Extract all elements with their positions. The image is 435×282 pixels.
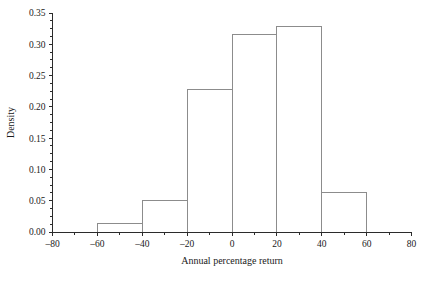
y-tick-label: 0.05 — [29, 196, 46, 206]
x-tick-label: –60 — [89, 239, 105, 249]
y-tick-label: 0.20 — [29, 102, 46, 112]
histogram-figure: –80–60–40–20020406080 0.000.050.100.150.… — [0, 0, 435, 282]
histogram-svg: –80–60–40–20020406080 0.000.050.100.150.… — [0, 0, 435, 282]
x-tick-label: 40 — [317, 239, 327, 249]
y-tick-label: 0.15 — [29, 134, 46, 144]
x-tick-label: 20 — [272, 239, 282, 249]
y-tick-label: 0.00 — [29, 227, 46, 237]
y-tick-label: 0.10 — [29, 165, 46, 175]
x-tick-label: –40 — [134, 239, 150, 249]
x-tick-label: 80 — [407, 239, 417, 249]
y-tick-label: 0.25 — [29, 71, 46, 81]
x-tick-label: –80 — [44, 239, 60, 249]
y-tick-label: 0.35 — [29, 8, 46, 18]
y-axis-title: Density — [5, 107, 16, 138]
x-tick-label: 60 — [362, 239, 372, 249]
x-tick-label: 0 — [230, 239, 235, 249]
y-tick-label: 0.30 — [29, 40, 46, 50]
x-axis-title: Annual percentage return — [181, 255, 283, 266]
x-tick-label: –20 — [179, 239, 195, 249]
